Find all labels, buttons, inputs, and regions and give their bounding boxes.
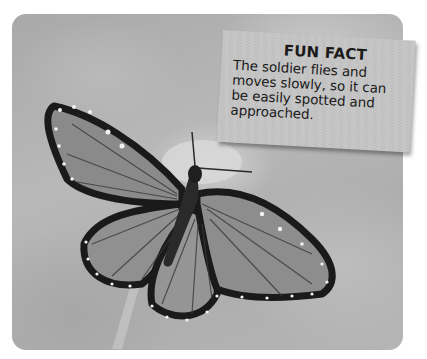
fun-fact-body: The soldier flies and moves slowly, so i… (230, 58, 408, 128)
fun-fact-card: FUN FACT The soldier flies and moves slo… (217, 30, 416, 153)
fun-fact-figure: FUN FACT The soldier flies and moves slo… (0, 0, 427, 359)
